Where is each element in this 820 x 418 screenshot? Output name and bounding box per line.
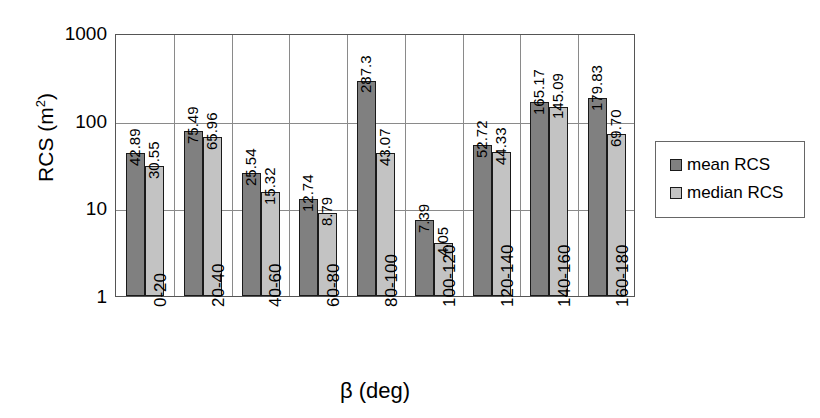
bar-label-mean: 42.89 bbox=[127, 128, 142, 166]
bar-label-median: 69.70 bbox=[608, 110, 623, 148]
bar-label-mean: 52.72 bbox=[474, 120, 489, 158]
legend: mean RCSmedian RCS bbox=[655, 141, 805, 218]
bar-label-mean: 7.39 bbox=[416, 204, 431, 233]
x-tick-label: 140-160 bbox=[556, 245, 573, 307]
bar-mean bbox=[126, 153, 145, 296]
x-tick-label: 120-140 bbox=[499, 245, 516, 307]
bar-label-mean: 25.54 bbox=[243, 148, 258, 186]
x-tick-label: 100-120 bbox=[441, 245, 458, 307]
bar-label-median: 65.96 bbox=[204, 112, 219, 150]
y-axis-ticks: 1000100101 bbox=[47, 0, 107, 418]
y-tick-label: 100 bbox=[49, 112, 107, 131]
bar-group: 75.4965.96 bbox=[174, 35, 232, 296]
bar-mean bbox=[184, 131, 203, 296]
bar-label-mean: 75.49 bbox=[185, 107, 200, 145]
bar-label-median: 15.32 bbox=[262, 168, 277, 206]
bar-group: 12.748.79 bbox=[289, 35, 347, 296]
bar-label-mean: 287.3 bbox=[358, 56, 373, 94]
bar-label-median: 30.55 bbox=[146, 141, 161, 179]
bar-mean bbox=[588, 98, 607, 296]
x-tick-label: 160-180 bbox=[614, 245, 631, 307]
rcs-bar-chart: RCS (m2) 1000100101 42.8930.5575.4965.96… bbox=[0, 0, 820, 418]
x-axis-title: β (deg) bbox=[115, 378, 635, 404]
x-tick-label: 60-80 bbox=[325, 264, 342, 307]
bar-label-median: 43.07 bbox=[377, 128, 392, 166]
y-tick-label: 10 bbox=[49, 199, 107, 218]
bar-label-mean: 179.83 bbox=[589, 65, 604, 111]
bar-group: 25.5415.32 bbox=[232, 35, 290, 296]
bar-label-mean: 165.17 bbox=[531, 69, 546, 115]
bar-label-median: 145.09 bbox=[550, 74, 565, 120]
y-tick-label: 1000 bbox=[49, 24, 107, 43]
bar-mean bbox=[357, 81, 376, 297]
legend-label: mean RCS bbox=[687, 155, 770, 175]
legend-swatch-icon bbox=[670, 187, 682, 199]
y-tick-label: 1 bbox=[49, 287, 107, 306]
bar-group: 42.8930.55 bbox=[116, 35, 174, 296]
bar-mean bbox=[530, 102, 549, 296]
bar-label-median: 44.33 bbox=[493, 127, 508, 165]
y-axis-title-exponent: 2 bbox=[33, 100, 48, 107]
x-tick-label: 80-100 bbox=[383, 254, 400, 307]
legend-item-mean[interactable]: mean RCS bbox=[656, 151, 804, 179]
x-tick-label: 40-60 bbox=[267, 264, 284, 307]
x-tick-label: 20-40 bbox=[210, 264, 227, 307]
legend-swatch-icon bbox=[670, 159, 682, 171]
legend-item-median[interactable]: median RCS bbox=[656, 179, 804, 207]
bar-label-mean: 12.74 bbox=[300, 175, 315, 213]
legend-label: median RCS bbox=[687, 183, 783, 203]
bar-label-median: 8.79 bbox=[319, 197, 334, 226]
bar-mean bbox=[473, 145, 492, 296]
bar-mean bbox=[242, 173, 261, 296]
bar-mean bbox=[299, 199, 318, 296]
x-tick-label: 0-20 bbox=[152, 273, 169, 307]
